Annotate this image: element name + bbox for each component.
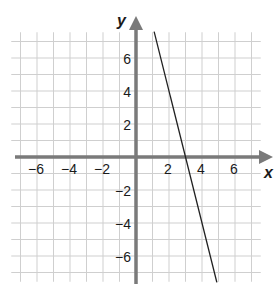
y-tick-label: −6	[115, 249, 131, 265]
x-tick-label: 6	[230, 161, 238, 177]
x-axis-arrow-icon	[259, 150, 273, 164]
coordinate-plane-chart: −6−4−2246642−2−4−6 x y	[0, 0, 278, 290]
x-tick-label: 2	[164, 161, 172, 177]
y-axis-label: y	[116, 12, 127, 29]
x-tick-label: −4	[61, 161, 77, 177]
x-tick-label: 4	[197, 161, 205, 177]
y-tick-label: 2	[123, 117, 131, 133]
y-tick-label: 4	[123, 84, 131, 100]
x-axis-label: x	[263, 164, 274, 181]
y-tick-label: −2	[115, 183, 131, 199]
x-tick-label: −6	[28, 161, 44, 177]
y-axis-arrow-icon	[129, 16, 143, 30]
y-tick-label: −4	[115, 216, 131, 232]
y-tick-label: 6	[123, 51, 131, 67]
x-tick-label: −2	[94, 161, 110, 177]
